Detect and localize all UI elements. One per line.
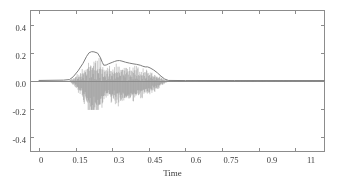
xtick-label-0.75: 0.75: [218, 156, 244, 165]
ytick-label-neg0.4: -0.4: [0, 136, 26, 145]
xaxis-title: Time: [0, 168, 345, 178]
ytick-label-neg0.2: -0.2: [0, 108, 26, 117]
xtick-label-0.45: 0.45: [142, 156, 168, 165]
ytick-label-0.0: 0.0: [2, 80, 26, 89]
xtick-label-0.15: 0.15: [67, 156, 93, 165]
ytick-label-0.4: 0.4: [2, 24, 26, 33]
xtick-label-1.05: 11: [299, 156, 323, 165]
xtick-label-0.9: 0.9: [260, 156, 284, 165]
xtick-label-0: 0: [29, 156, 53, 165]
xtick-label-0.3: 0.3: [107, 156, 131, 165]
xtick-label-0.6: 0.6: [184, 156, 208, 165]
waveform-figure: 0.4 0.2 0.0 -0.2 -0.4 0 0.15 0.3 0.45 0.…: [0, 0, 345, 189]
ytick-label-0.2: 0.2: [2, 52, 26, 61]
